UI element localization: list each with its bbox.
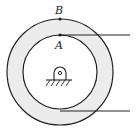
point-a-dot <box>58 33 61 36</box>
label-a: A <box>55 40 63 51</box>
label-b: B <box>55 5 63 16</box>
point-b-dot <box>58 17 61 20</box>
stepped-pulley-diagram <box>0 0 140 129</box>
